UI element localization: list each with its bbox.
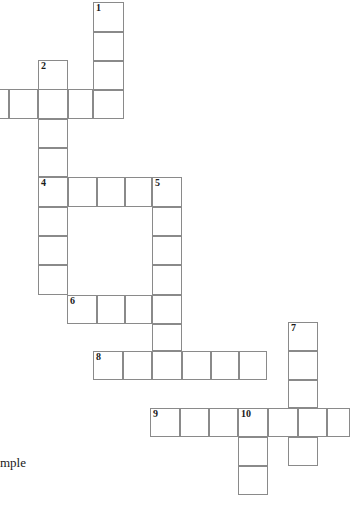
clue-number: 7 — [291, 322, 296, 334]
clue-number: 10 — [241, 408, 251, 420]
crossword-cell[interactable] — [268, 408, 298, 437]
crossword-cell[interactable] — [125, 177, 152, 207]
crossword-cell[interactable] — [152, 324, 182, 351]
crossword-cell[interactable] — [327, 408, 350, 437]
crossword-cell[interactable] — [152, 236, 182, 265]
crossword-cell[interactable] — [239, 351, 267, 380]
crossword-cell[interactable] — [93, 61, 124, 90]
crossword-cell[interactable] — [68, 89, 93, 119]
crossword-cell[interactable] — [288, 351, 318, 380]
crossword-cell[interactable] — [0, 89, 9, 119]
crossword-cell[interactable] — [182, 351, 211, 380]
crossword-cell[interactable] — [180, 408, 209, 437]
clue-number: 4 — [41, 177, 46, 189]
crossword-cell[interactable] — [238, 437, 268, 466]
crossword-grid[interactable]: 1245678910 — [0, 0, 350, 508]
crossword-cell[interactable] — [288, 437, 318, 466]
caption-text: mple — [0, 455, 26, 470]
crossword-cell[interactable] — [97, 177, 125, 207]
crossword-cell-numbered[interactable]: 2 — [38, 60, 68, 90]
clue-number: 5 — [155, 177, 160, 189]
clue-number: 8 — [96, 351, 101, 363]
clue-number: 2 — [41, 60, 46, 72]
crossword-cell[interactable] — [298, 408, 327, 437]
clue-number: 1 — [96, 2, 101, 14]
crossword-cell[interactable] — [38, 119, 68, 148]
crossword-cell-numbered[interactable]: 4 — [38, 177, 68, 207]
crossword-cell[interactable] — [93, 90, 124, 119]
crossword-cell[interactable] — [152, 265, 182, 295]
crossword-cell-numbered[interactable]: 7 — [288, 322, 318, 351]
crossword-cell[interactable] — [238, 466, 268, 495]
crossword-cell-numbered[interactable]: 6 — [67, 295, 97, 324]
crossword-cell[interactable] — [125, 295, 152, 324]
crossword-cell-numbered[interactable]: 5 — [152, 177, 182, 207]
crossword-cell[interactable] — [152, 351, 182, 380]
crossword-cell[interactable] — [97, 295, 125, 324]
crossword-cell-numbered[interactable]: 10 — [238, 408, 268, 437]
crossword-cell[interactable] — [68, 177, 97, 207]
crossword-cell[interactable] — [152, 207, 182, 236]
crossword-cell[interactable] — [211, 351, 239, 380]
crossword-cell[interactable] — [209, 408, 238, 437]
crossword-cell-numbered[interactable]: 9 — [150, 408, 180, 437]
crossword-cell-numbered[interactable]: 1 — [93, 2, 124, 32]
crossword-cell[interactable] — [93, 32, 124, 61]
clue-number: 6 — [70, 295, 75, 307]
crossword-cell-numbered[interactable]: 8 — [93, 351, 123, 380]
crossword-cell[interactable] — [38, 236, 68, 265]
crossword-cell[interactable] — [38, 148, 68, 177]
crossword-page: 1245678910 mple — [0, 0, 350, 508]
crossword-cell[interactable] — [38, 89, 68, 119]
crossword-cell[interactable] — [38, 207, 68, 236]
crossword-cell[interactable] — [123, 351, 152, 380]
crossword-cell[interactable] — [38, 265, 68, 295]
crossword-cell[interactable] — [152, 295, 182, 324]
crossword-cell[interactable] — [9, 89, 38, 119]
clue-number: 9 — [153, 408, 158, 420]
crossword-cell[interactable] — [288, 380, 318, 408]
